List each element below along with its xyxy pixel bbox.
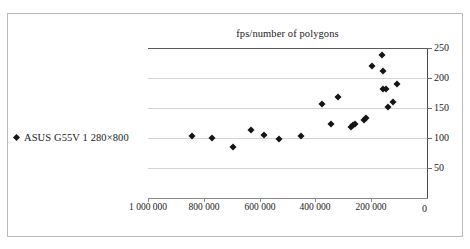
gridline-250	[148, 48, 427, 49]
data-point	[379, 68, 386, 75]
data-point	[209, 134, 216, 141]
y-axis-label-200: 200	[434, 73, 449, 83]
chart-title: fps/number of polygons	[148, 28, 427, 39]
y-axis-label-250: 250	[434, 43, 449, 53]
y-axis-tick-200	[427, 78, 432, 79]
data-point	[389, 98, 396, 105]
y-axis-tick-50	[427, 168, 432, 169]
diamond-marker-icon	[13, 134, 20, 141]
x-axis-label-600000: 600 000	[245, 203, 276, 213]
data-point	[247, 126, 254, 133]
y-axis-tick-250	[427, 48, 432, 49]
y-axis-label-zero: 0	[422, 203, 427, 214]
value-axis-line	[427, 48, 428, 199]
legend-series-label: ASUS G55V 1 280×800	[24, 132, 129, 143]
gridline-200	[148, 78, 427, 79]
y-axis-label-50: 50	[434, 163, 444, 173]
data-point	[383, 86, 390, 93]
x-axis-label-400000: 400 000	[300, 203, 331, 213]
chart-figure: fps/number of polygons 0 ASUS G55V 1 280…	[0, 0, 470, 249]
y-axis-tick-150	[427, 108, 432, 109]
data-point	[327, 120, 334, 127]
data-point	[335, 94, 342, 101]
y-axis-label-100: 100	[434, 133, 449, 143]
gridline-50	[148, 168, 427, 169]
data-point	[319, 100, 326, 107]
y-axis-label-150: 150	[434, 103, 449, 113]
x-axis-label-800000: 800 000	[189, 203, 220, 213]
y-axis-tick-100	[427, 138, 432, 139]
data-point	[393, 80, 400, 87]
chart-legend: ASUS G55V 1 280×800	[14, 132, 129, 143]
data-point	[378, 52, 385, 59]
data-point	[230, 143, 237, 150]
data-point	[384, 104, 391, 111]
data-point	[369, 62, 376, 69]
plot-area	[148, 48, 427, 198]
data-point	[363, 114, 370, 121]
x-axis-label-1000000: 1 000 000	[129, 203, 167, 213]
data-point	[276, 135, 283, 142]
category-axis-line	[148, 198, 428, 199]
x-axis-label-200000: 200 000	[356, 203, 387, 213]
